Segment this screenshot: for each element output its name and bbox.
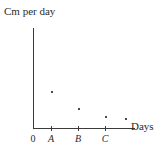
data-point — [105, 116, 107, 118]
data-point — [125, 118, 127, 120]
data-point — [51, 91, 53, 93]
scatter-chart: Cm per day Days 0ABC — [0, 0, 164, 159]
data-points-layer — [0, 0, 164, 159]
data-point — [78, 108, 80, 110]
